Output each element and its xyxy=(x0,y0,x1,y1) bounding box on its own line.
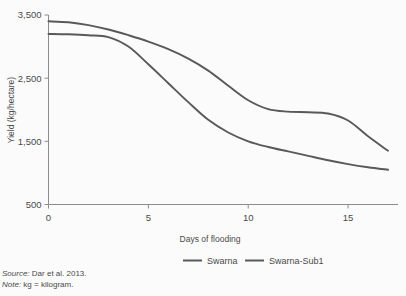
y-axis-ticks: 5001,5002,5003,500 xyxy=(18,9,49,210)
figure-notes: Source: Dar et al. 2013. Note: kg = kilo… xyxy=(2,268,87,290)
y-tick-label: 1,500 xyxy=(18,136,42,147)
source-text: Dar et al. 2013. xyxy=(32,269,87,278)
chart-series-group xyxy=(49,21,389,169)
abbreviation-note: Note: kg = kilogram. xyxy=(2,279,87,290)
source-label: Source: xyxy=(2,269,30,278)
y-tick-label: 2,500 xyxy=(18,73,42,84)
x-axis-ticks: 051015 xyxy=(46,205,354,223)
series-line-swarna xyxy=(49,34,389,170)
chart-legend: Swarna Swarna-Sub1 xyxy=(183,256,324,266)
x-tick-label: 0 xyxy=(46,212,51,223)
note-text: kg = kilogram. xyxy=(23,280,73,289)
x-tick-label: 15 xyxy=(343,212,354,223)
legend-label-swarna: Swarna xyxy=(207,256,238,266)
y-tick-label: 500 xyxy=(26,199,42,210)
source-note: Source: Dar et al. 2013. xyxy=(2,268,87,279)
note-label: Note: xyxy=(2,280,21,289)
y-tick-label: 3,500 xyxy=(18,9,42,20)
legend-label-swarna-sub1: Swarna-Sub1 xyxy=(269,256,324,266)
x-tick-label: 10 xyxy=(243,212,254,223)
x-tick-label: 5 xyxy=(146,212,151,223)
series-line-swarna-sub1 xyxy=(49,21,389,150)
x-axis-title: Days of flooding xyxy=(180,234,241,244)
yield-vs-flooding-line-chart: 5001,5002,5003,500 051015 Yield (kg/hect… xyxy=(0,0,406,296)
chart-figure: 5001,5002,5003,500 051015 Yield (kg/hect… xyxy=(0,0,406,296)
y-axis-title: Yield (kg/hectare) xyxy=(6,77,16,143)
